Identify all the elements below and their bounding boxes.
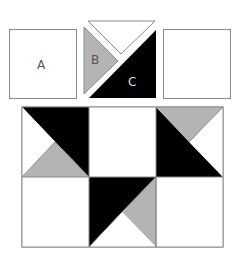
cell-bottom-right [156, 177, 223, 247]
cell-bottom-left [22, 177, 89, 247]
label-b: B [91, 53, 99, 67]
square-right [164, 30, 231, 99]
label-a: A [37, 58, 46, 72]
cell-top-center [89, 107, 156, 177]
quilt-block [22, 107, 223, 247]
label-c: C [128, 75, 136, 89]
pieces-row: A B C [10, 21, 231, 99]
quilt-diagram: A B C [0, 0, 238, 259]
